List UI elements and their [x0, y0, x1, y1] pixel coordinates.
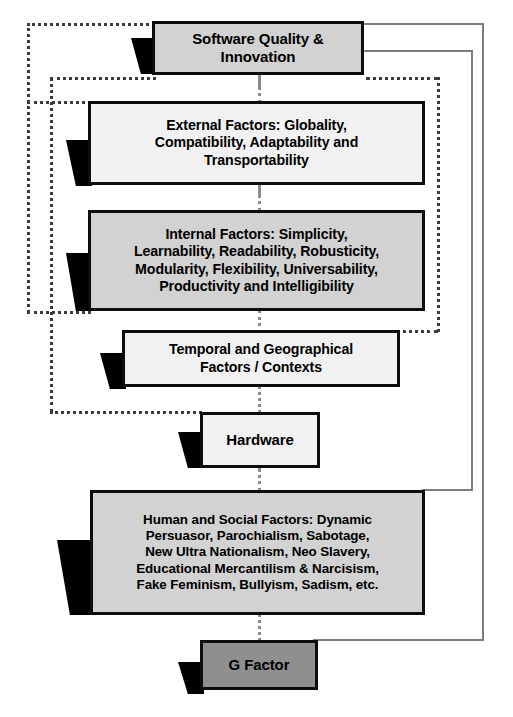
node-human-social-label: Human and Social Factors: Dynamic Persua… — [130, 512, 385, 594]
node-software-quality-label: Software Quality & Innovation — [186, 30, 330, 67]
node-human-social[interactable]: Human and Social Factors: Dynamic Persua… — [90, 490, 425, 615]
node-hardware[interactable]: Hardware — [200, 412, 320, 468]
solid-connector-outer-bottom — [313, 639, 484, 641]
spine-hardware-to-human — [258, 468, 261, 492]
dotted-connector-right-top — [366, 77, 438, 80]
solid-connector-outer-vertical — [482, 23, 484, 641]
dotted-connector-external-stub — [27, 101, 91, 104]
node-external-factors[interactable]: External Factors: Globality, Compatibili… — [88, 101, 425, 185]
dotted-connector-right-bottom — [396, 330, 438, 333]
dotted-connector-outer-bottom — [27, 311, 91, 314]
node-g-factor-label: G Factor — [223, 656, 296, 674]
dotted-connector-mid-bottom — [50, 411, 202, 414]
solid-connector-inner-vertical — [471, 50, 473, 491]
node-software-quality[interactable]: Software Quality & Innovation — [152, 21, 364, 75]
pointer-human-social — [57, 540, 91, 615]
solid-connector-inner-top — [363, 50, 473, 52]
diagram-canvas: Software Quality & Innovation External F… — [0, 0, 513, 717]
dotted-connector-outer-top — [27, 23, 155, 26]
node-temporal-geographical-label: Temporal and Geographical Factors / Cont… — [163, 341, 359, 376]
dotted-connector-outer-vertical — [27, 23, 30, 313]
solid-connector-outer-top — [363, 23, 484, 25]
node-g-factor[interactable]: G Factor — [200, 640, 318, 690]
node-internal-factors-label: Internal Factors: Simplicity, Learnabili… — [128, 226, 385, 295]
spine-temporal-to-hardware — [258, 386, 261, 413]
node-external-factors-label: External Factors: Globality, Compatibili… — [149, 117, 364, 169]
node-hardware-label: Hardware — [220, 431, 300, 449]
node-temporal-geographical[interactable]: Temporal and Geographical Factors / Cont… — [122, 330, 400, 387]
spine-human-to-gfactor — [258, 614, 261, 641]
dotted-connector-right-vertical — [437, 77, 440, 332]
dotted-connector-mid-vertical — [50, 77, 53, 413]
dotted-connector-mid-top — [50, 77, 156, 80]
solid-connector-inner-bottom — [422, 489, 473, 491]
node-internal-factors[interactable]: Internal Factors: Simplicity, Learnabili… — [88, 210, 425, 311]
